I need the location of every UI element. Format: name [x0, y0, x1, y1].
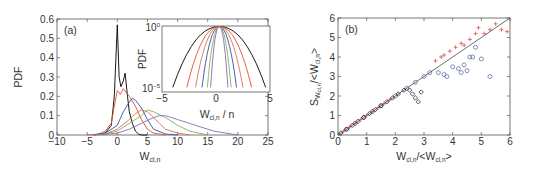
y-axis-label: PDF: [12, 67, 24, 88]
scatter-point: [456, 67, 460, 71]
scatter-point: [471, 55, 475, 59]
x-tick-label: 3: [421, 136, 427, 147]
scatter-point: [454, 45, 458, 49]
inset-y-axis-label: PDF: [137, 49, 148, 69]
scatter-point: [505, 30, 509, 34]
scatter-point: [442, 73, 446, 77]
scatter-point: [459, 41, 463, 45]
scatter-point: [433, 59, 437, 63]
scatter-point: [462, 43, 466, 47]
scatter-point: [419, 90, 423, 94]
y-axis-label: SWcl,n/<Wcl,n>: [308, 48, 322, 106]
scatter-point: [448, 49, 452, 53]
scatter-point: [499, 28, 503, 32]
x-tick-label: 15: [202, 136, 214, 147]
scatter-point: [462, 63, 466, 67]
x-tick-label: 4: [450, 136, 456, 147]
scatter-point: [436, 71, 440, 75]
scatter-point: [494, 22, 498, 26]
scatter-point: [410, 92, 414, 96]
inset-x-tick-label: 5: [267, 93, 273, 104]
x-tick-label: 0: [335, 136, 341, 147]
inset-x-tick-label: −5: [156, 93, 168, 104]
y-tick-label: 0: [48, 130, 54, 141]
scatter-point: [474, 45, 478, 49]
y-tick-label: 5: [329, 32, 335, 43]
y-tick-label: 0.6: [40, 14, 54, 25]
inset-x-axis-label: Wcl,n / n: [200, 108, 235, 121]
x-tick-label: 25: [262, 136, 274, 147]
inset-x-tick-label: 0: [213, 93, 219, 104]
y-tick-label: 2: [329, 91, 335, 102]
inset-y-tick-top: 100: [146, 22, 161, 33]
scatter-point: [445, 75, 449, 79]
panel-b: 01234560123456(b)SWcl,n/<Wcl,n>Wcl,n/<Wc…: [308, 13, 513, 164]
y-tick-label: 1: [329, 110, 335, 121]
figure: −10−5051015202500.10.20.30.40.50.6(a)PDF…: [0, 0, 533, 169]
y-tick-label: 0.2: [40, 91, 54, 102]
scatter-point: [488, 75, 492, 79]
inset-chart: −50510010−5PDFWcl,n / n: [137, 22, 273, 121]
y-tick-label: 0.1: [40, 110, 54, 121]
panel-label-a: (a): [64, 24, 77, 36]
scatter-point: [413, 96, 417, 100]
x-tick-label: 5: [479, 136, 485, 147]
scatter-point: [416, 100, 420, 104]
y-tick-label: 6: [329, 13, 335, 24]
x-tick-label: 10: [172, 136, 184, 147]
x-tick-label: 20: [232, 136, 244, 147]
x-tick-label: 1: [364, 136, 370, 147]
x-tick-label: 5: [145, 136, 151, 147]
scatter-point: [468, 37, 472, 41]
x-tick-label: 2: [393, 136, 399, 147]
scatter-point: [439, 55, 443, 59]
y-tick-label: 0.3: [40, 72, 54, 83]
x-tick-label: 6: [507, 136, 513, 147]
x-axis-label: Wcl,n: [140, 150, 161, 163]
scatter-point: [479, 57, 483, 61]
scatter-point: [474, 32, 478, 36]
scatter-point: [465, 69, 469, 73]
scatter-point: [476, 26, 480, 30]
scatter-point: [442, 53, 446, 57]
scatter-point: [407, 88, 411, 92]
scatter-point: [459, 71, 463, 75]
x-tick-label: −5: [81, 136, 93, 147]
y-tick-label: 0.4: [40, 52, 54, 63]
y-tick-label: 3: [329, 71, 335, 82]
y-tick-label: 0.5: [40, 33, 54, 44]
y-tick-label: 4: [329, 52, 335, 63]
x-tick-label: 0: [115, 136, 121, 147]
x-axis-label: Wcl,n/<Wcl,n>: [396, 150, 451, 163]
y-tick-label: 0: [329, 130, 335, 141]
scatter-point: [451, 65, 455, 69]
panel-label-b: (b): [345, 23, 358, 35]
